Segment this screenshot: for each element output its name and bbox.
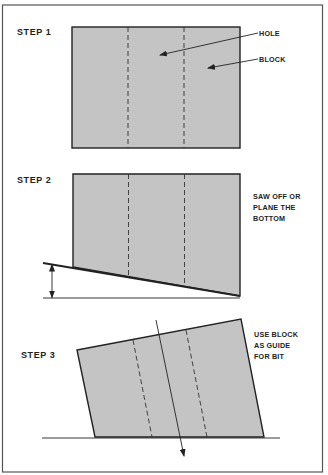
step-3-note-line: FOR BIT (254, 352, 285, 361)
step-2-note-line: SAW OFF OR (253, 192, 301, 201)
step-3-label: STEP 3 (21, 350, 55, 360)
step-3-note-line: USE BLOCK (254, 330, 299, 339)
block-callout: BLOCK (259, 55, 286, 64)
block-cut-angle (73, 174, 240, 296)
step-2-note-line: PLANE THE (253, 203, 296, 212)
step-3: STEP 3 USE BLOCK AS GUIDE FOR BIT (21, 319, 299, 456)
step-2: STEP 2 SAW OFF OR PLANE THE BOTTOM (17, 174, 301, 298)
step-2-label: STEP 2 (17, 175, 51, 185)
block-rectangle (72, 27, 240, 148)
tilted-block (77, 319, 264, 437)
drilling-guide-diagram: STEP 1 HOLE BLOCK STEP 2 SAW OFF OR PLAN… (0, 0, 328, 475)
step-2-note-line: BOTTOM (253, 214, 285, 223)
step-1: STEP 1 HOLE BLOCK (17, 27, 286, 148)
hole-callout: HOLE (259, 29, 280, 38)
step-1-label: STEP 1 (17, 27, 51, 37)
step-3-note-line: AS GUIDE (254, 341, 290, 350)
